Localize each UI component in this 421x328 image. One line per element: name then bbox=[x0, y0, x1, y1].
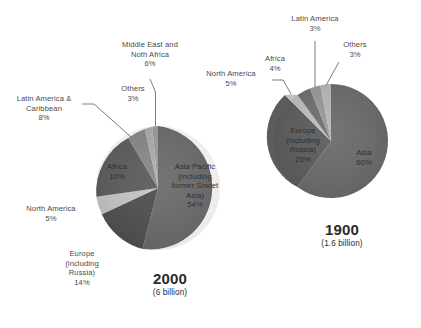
label-latin-america-2000: Latin America & Caribbean 8% bbox=[2, 94, 86, 123]
chart-title-1900-total: (1.6 billion) bbox=[292, 238, 392, 249]
chart-title-1900: 1900 (1.6 billion) bbox=[292, 221, 392, 249]
chart-title-1900-year: 1900 bbox=[292, 221, 392, 238]
label-middle-east-2000: Middle East and Noth Africa 6% bbox=[84, 40, 216, 69]
label-asia-pacific-2000: Asia Pacific (including former Soviet As… bbox=[156, 162, 234, 210]
label-north-america-1900: North America 5% bbox=[190, 69, 272, 88]
leader-line-north-america-1900 bbox=[272, 80, 291, 94]
chart-title-2000-total: (6 billion) bbox=[120, 287, 220, 298]
label-others-2000: Others 3% bbox=[104, 84, 162, 103]
label-europe-1900: Europe (including Russia) 25% bbox=[272, 126, 334, 164]
label-asia-1900: Asia 60% bbox=[345, 148, 383, 167]
label-latin-america-1900: Latin America 3% bbox=[274, 14, 356, 33]
leader-line-latin-america-2000 bbox=[82, 104, 131, 137]
label-others-1900: Others 3% bbox=[329, 40, 381, 59]
leader-line-others-1900 bbox=[326, 62, 339, 86]
label-north-america-2000: North America 5% bbox=[10, 204, 92, 223]
label-africa-2000: Africa 10% bbox=[94, 162, 140, 181]
population-distribution-figure: Middle East and Noth Africa 6% Others 3%… bbox=[0, 0, 421, 328]
chart-title-2000-year: 2000 bbox=[120, 270, 220, 287]
chart-title-2000: 2000 (6 billion) bbox=[120, 270, 220, 298]
label-europe-2000: Europe (including Russia) 14% bbox=[48, 249, 116, 287]
